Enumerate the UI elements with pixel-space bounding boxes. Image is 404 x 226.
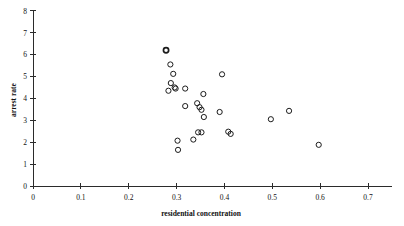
data-point <box>168 80 173 85</box>
data-point <box>175 138 180 143</box>
y-tick-label: 0 <box>23 182 27 191</box>
data-point <box>191 137 196 142</box>
y-axis-title: arrest rate <box>9 82 18 116</box>
plot-canvas: 00.10.20.30.40.50.60.7012345678 resident… <box>0 0 404 226</box>
x-tick-label: 0.5 <box>268 193 278 202</box>
tick-group <box>30 11 368 189</box>
x-tick-label: 0.7 <box>363 193 373 202</box>
data-point <box>175 147 180 152</box>
y-tick-label: 7 <box>23 29 27 38</box>
y-tick-label: 6 <box>23 50 27 59</box>
y-tick-label: 1 <box>23 160 27 169</box>
y-tick-label: 2 <box>23 138 27 147</box>
data-point <box>171 71 176 76</box>
data-point-group <box>163 48 321 153</box>
x-tick-label: 0.1 <box>76 193 86 202</box>
tick-label-group: 00.10.20.30.40.50.60.7012345678 <box>23 7 373 202</box>
data-point <box>183 86 188 91</box>
data-point <box>286 108 291 113</box>
scatter-plot-figure: 00.10.20.30.40.50.60.7012345678 resident… <box>0 0 404 226</box>
data-point <box>316 142 321 147</box>
data-point <box>201 114 206 119</box>
y-tick-label: 8 <box>23 7 27 16</box>
data-point <box>163 48 168 53</box>
data-point <box>217 109 222 114</box>
x-tick-label: 0 <box>31 193 35 202</box>
data-point <box>219 72 224 77</box>
data-point <box>201 91 206 96</box>
x-tick-label: 0.3 <box>172 193 182 202</box>
y-tick-label: 4 <box>23 94 27 103</box>
data-point <box>199 130 204 135</box>
x-tick-label: 0.4 <box>220 193 230 202</box>
data-point <box>183 103 188 108</box>
x-tick-label: 0.6 <box>315 193 325 202</box>
data-point <box>166 88 171 93</box>
axis-group <box>33 11 392 186</box>
x-axis-title: residential concentration <box>161 209 241 218</box>
data-point <box>268 117 273 122</box>
x-tick-label: 0.2 <box>124 193 134 202</box>
data-point <box>168 62 173 67</box>
y-tick-label: 5 <box>23 72 27 81</box>
y-tick-label: 3 <box>23 116 27 125</box>
